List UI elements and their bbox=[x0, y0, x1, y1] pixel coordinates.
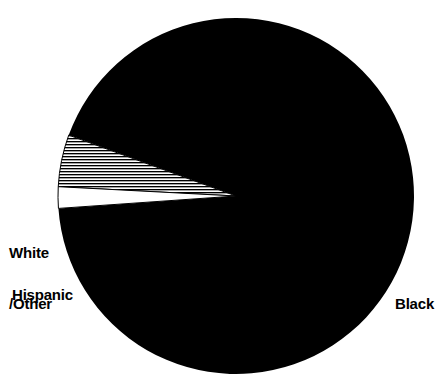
slice-label-white-other: White /Other bbox=[9, 210, 52, 346]
slice-label-white-other-line1: White bbox=[9, 244, 52, 261]
slice-label-black: Black bbox=[395, 295, 434, 312]
pie-chart bbox=[0, 0, 442, 391]
pie-slices bbox=[58, 18, 414, 374]
chart-canvas: White /Other Hispanic Black bbox=[0, 0, 442, 391]
slice-label-hispanic: Hispanic bbox=[12, 286, 73, 303]
